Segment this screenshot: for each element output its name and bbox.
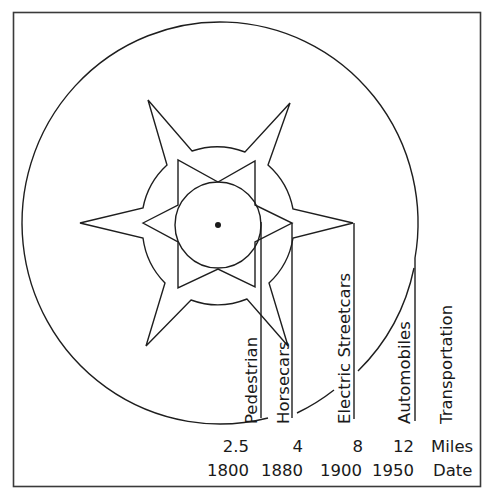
city-center-dot — [215, 222, 221, 228]
automobiles-label: Automobiles — [395, 321, 414, 424]
transportation-diagram: Pedestrian Horsecars Electric Streetcars… — [0, 0, 492, 498]
date-value-horsecars: 1880 — [261, 461, 303, 480]
miles-value-pedestrian: 2.5 — [223, 437, 249, 456]
miles-value-streetcars: 8 — [353, 437, 364, 456]
pedestrian-label: Pedestrian — [242, 337, 261, 424]
date-row-label: Date — [433, 461, 472, 480]
miles-row-label: Miles — [431, 437, 473, 456]
electric-streetcars-label: Electric Streetcars — [335, 273, 354, 424]
date-value-pedestrian: 1800 — [207, 461, 249, 480]
automobiles-radius-arc-segment — [297, 390, 334, 413]
date-value-automobiles: 1950 — [372, 461, 414, 480]
horsecars-label: Horsecars — [274, 341, 293, 424]
date-value-streetcars: 1900 — [320, 461, 362, 480]
miles-value-automobiles: 12 — [393, 437, 414, 456]
miles-value-horsecars: 4 — [293, 437, 304, 456]
transportation-header-label: Transportation — [437, 305, 456, 425]
